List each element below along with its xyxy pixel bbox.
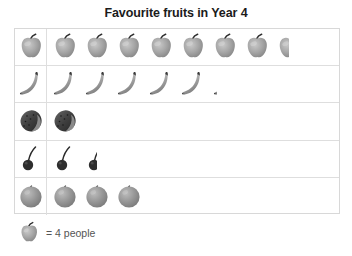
table-row bbox=[15, 66, 339, 103]
row-key-cell-grapes bbox=[15, 103, 47, 139]
pictogram-page: Favourite fruits in Year 4 bbox=[0, 0, 352, 256]
apple-icon bbox=[241, 31, 273, 63]
legend-label: = 4 people bbox=[46, 227, 95, 239]
apple-icon bbox=[177, 31, 209, 63]
row-key-cell-banana bbox=[15, 66, 47, 102]
legend: = 4 people bbox=[16, 220, 95, 246]
banana-icon-partial bbox=[209, 68, 217, 100]
apple-icon bbox=[113, 31, 145, 63]
apple-icon bbox=[49, 31, 81, 63]
cherry-icon-partial bbox=[81, 143, 97, 175]
apple-icon bbox=[145, 31, 177, 63]
apple-icon bbox=[15, 31, 47, 63]
pictogram-table bbox=[14, 28, 340, 214]
table-row bbox=[15, 29, 339, 66]
orange-icon bbox=[81, 180, 113, 212]
grapes-icon bbox=[49, 105, 81, 137]
banana-icon bbox=[113, 68, 145, 100]
banana-icon bbox=[49, 68, 81, 100]
orange-icon bbox=[49, 180, 81, 212]
row-key-cell-orange bbox=[15, 178, 47, 215]
banana-icon bbox=[81, 68, 113, 100]
row-key-cell-cherry bbox=[15, 141, 47, 177]
table-row bbox=[15, 178, 339, 215]
cherry-icon bbox=[15, 143, 47, 175]
apple-icon-partial bbox=[273, 31, 289, 63]
grapes-icon bbox=[15, 105, 47, 137]
row-data-cell-grapes bbox=[47, 103, 339, 139]
orange-icon bbox=[15, 180, 47, 212]
row-data-cell-apple bbox=[47, 29, 339, 65]
cherry-icon bbox=[49, 143, 81, 175]
apple-icon bbox=[81, 31, 113, 63]
table-row bbox=[15, 103, 339, 140]
table-row bbox=[15, 141, 339, 178]
row-data-cell-cherry bbox=[47, 141, 339, 177]
row-key-cell-apple bbox=[15, 29, 47, 65]
banana-icon bbox=[15, 68, 47, 100]
row-data-cell-banana bbox=[47, 66, 339, 102]
page-title: Favourite fruits in Year 4 bbox=[0, 6, 352, 20]
apple-icon bbox=[16, 220, 42, 246]
banana-icon bbox=[145, 68, 177, 100]
apple-icon bbox=[209, 31, 241, 63]
row-data-cell-orange bbox=[47, 178, 339, 215]
banana-icon bbox=[177, 68, 209, 100]
orange-icon bbox=[113, 180, 145, 212]
